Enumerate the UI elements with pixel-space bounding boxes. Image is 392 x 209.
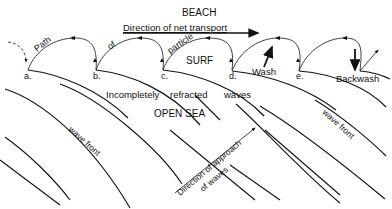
point-b: b. [93,71,101,81]
incompletely-label: Incompletely [106,89,160,100]
backwash-label: Backwash [336,73,379,84]
wash-arrow [264,47,272,67]
refracted-label: refracted [170,89,208,100]
point-c: c. [161,71,168,81]
point-d: d. [229,71,237,81]
wave-front-label-left: wave front [66,123,103,158]
path-word-path: Path [32,34,53,53]
wash-label: Wash [252,66,276,77]
net-transport-label: Direction of net transport [123,22,227,33]
surf-label: SURF [186,55,213,66]
wave-front-label-right: wave front [320,106,357,141]
path-word-particle: particle [165,31,195,56]
waves-label: waves [223,89,251,100]
point-a: a. [24,71,32,81]
longshore-drift-diagram: BEACH Direction of net transport Path of… [0,0,392,209]
open-sea-label: OPEN SEA [154,108,205,119]
wave-front-lines [0,84,386,208]
point-e: e. [296,71,304,81]
beach-title: BEACH [182,7,216,18]
